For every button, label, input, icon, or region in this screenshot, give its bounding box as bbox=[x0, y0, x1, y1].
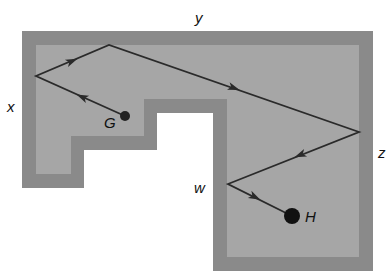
ball-g-icon bbox=[120, 111, 130, 121]
diagram-canvas bbox=[0, 0, 389, 277]
label-h: H bbox=[305, 209, 316, 224]
label-w: w bbox=[194, 180, 205, 195]
label-x: x bbox=[7, 99, 15, 114]
label-y: y bbox=[195, 10, 203, 25]
label-z: z bbox=[378, 145, 386, 160]
label-g: G bbox=[104, 115, 116, 130]
ball-h-icon bbox=[284, 208, 300, 224]
